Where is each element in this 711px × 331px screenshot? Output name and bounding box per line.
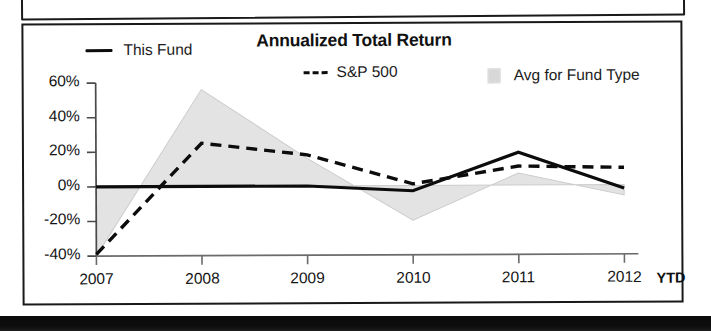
y-tick-label: 0%: [24, 176, 80, 194]
x-axis-line: [96, 254, 638, 256]
x-tick-label: 2011: [474, 268, 564, 287]
screenshot-root: Annualized Total Return This Fund S&P 50…: [0, 0, 711, 331]
plot-area: 60%40%20%0%-20%-40% 20072008200920102011…: [23, 23, 685, 308]
y-tick-label: -20%: [24, 211, 80, 229]
x-tick-label: 2008: [157, 269, 247, 289]
y-tick-label: 20%: [24, 141, 80, 159]
x-tick-label: 2009: [263, 269, 353, 288]
x-tick-label: 2010: [368, 269, 458, 287]
annualized-total-return-chart-panel: Annualized Total Return This Fund S&P 50…: [21, 21, 683, 306]
page-edge-shadow-band: [0, 315, 711, 331]
adjacent-panel-fragment: [21, 0, 685, 21]
y-tick-label: 40%: [24, 107, 80, 125]
y-tick-label: -40%: [24, 245, 80, 263]
x-axis-ytd-note: YTD: [656, 270, 685, 286]
chart-svg: [23, 23, 685, 308]
y-tick-label: 60%: [24, 72, 80, 90]
y-axis-line: [96, 83, 97, 256]
x-tick-label: 2007: [51, 269, 141, 289]
